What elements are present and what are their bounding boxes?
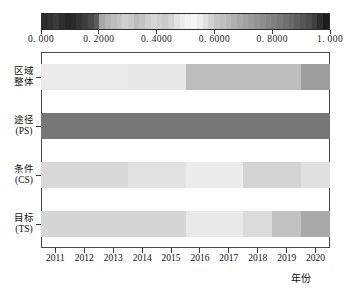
heatmap-cell[interactable] <box>41 211 70 237</box>
y-axis-label-line1: 目标 <box>14 213 34 223</box>
heatmap-cell[interactable] <box>186 211 215 237</box>
x-axis-label-2018: 2018 <box>248 253 267 263</box>
heatmap-cell[interactable] <box>99 64 128 90</box>
colorbar-tick-label-2: 0. 4000 <box>141 34 172 44</box>
heatmap-cell[interactable] <box>186 64 215 90</box>
heatmap-cell[interactable] <box>214 64 243 90</box>
y-axis-label-line2: (CS) <box>14 175 34 186</box>
y-axis: 区域整体途径(PS)条件(CS)目标(TS) <box>0 52 41 248</box>
x-axis-label-2016: 2016 <box>190 253 209 263</box>
heatmap-cell[interactable] <box>157 162 186 188</box>
heatmap-cell[interactable] <box>272 113 301 139</box>
heatmap-row <box>41 211 330 237</box>
heatmap-cell[interactable] <box>99 113 128 139</box>
heatmap-cell[interactable] <box>186 162 215 188</box>
heatmap-cell[interactable] <box>41 113 70 139</box>
y-axis-label-line2: 整体 <box>14 77 34 88</box>
colorbar-tick-label-3: 0. 6000 <box>199 34 230 44</box>
heatmap-cell[interactable] <box>99 211 128 237</box>
x-axis-label-2012: 2012 <box>75 253 94 263</box>
x-axis: 2011201220132014201520162017201820192020 <box>41 248 330 268</box>
y-axis-label-line1: 条件 <box>14 164 34 174</box>
x-axis-label-2013: 2013 <box>104 253 123 263</box>
colorbar-swatch-49 <box>323 14 329 29</box>
heatmap-cell[interactable] <box>243 211 272 237</box>
heatmap-grid <box>41 52 330 248</box>
heatmap-cell[interactable] <box>214 162 243 188</box>
colorbar-tick-labels: 0. 0000. 20000. 40000. 60000. 80001. 000 <box>0 34 346 50</box>
x-axis-label-2014: 2014 <box>133 253 152 263</box>
colorbar-tick-label-0: 0. 000 <box>28 34 54 44</box>
heatmap-cell[interactable] <box>41 64 70 90</box>
heatmap-cell[interactable] <box>70 162 99 188</box>
heatmap-cell[interactable] <box>243 113 272 139</box>
y-axis-tick-3 <box>36 224 41 225</box>
heatmap-cell[interactable] <box>272 64 301 90</box>
y-axis-tick-0 <box>36 77 41 78</box>
y-axis-tick-1 <box>36 126 41 127</box>
heatmap-cell[interactable] <box>128 113 157 139</box>
x-axis-label-2015: 2015 <box>162 253 181 263</box>
heatmap-cell[interactable] <box>70 113 99 139</box>
heatmap-cell[interactable] <box>272 211 301 237</box>
y-axis-label-line2: (PS) <box>14 126 34 137</box>
heatmap-row <box>41 113 330 139</box>
heatmap-cell[interactable] <box>157 64 186 90</box>
heatmap-cell[interactable] <box>41 162 70 188</box>
colorbar-tick-label-1: 0. 2000 <box>83 34 114 44</box>
x-axis-title: 年份 <box>291 270 311 285</box>
heatmap-cell[interactable] <box>128 211 157 237</box>
heatmap-cell[interactable] <box>301 113 330 139</box>
heatmap-cell[interactable] <box>301 64 330 90</box>
y-axis-label-line2: (TS) <box>14 224 34 235</box>
heatmap-cell[interactable] <box>157 211 186 237</box>
heatmap-cell[interactable] <box>99 162 128 188</box>
colorbar-tick-label-4: 0. 8000 <box>257 34 288 44</box>
y-axis-label-3: 目标(TS) <box>14 213 34 235</box>
heatmap-cell[interactable] <box>272 162 301 188</box>
heatmap-cell[interactable] <box>301 211 330 237</box>
y-axis-label-line1: 途径 <box>14 115 34 125</box>
colorbar-gradient-strip <box>41 13 330 30</box>
heatmap-cell[interactable] <box>243 64 272 90</box>
heatmap-cell[interactable] <box>128 64 157 90</box>
heatmap-row <box>41 64 330 90</box>
heatmap-cell[interactable] <box>70 211 99 237</box>
y-axis-label-1: 途径(PS) <box>14 115 34 137</box>
y-axis-label-0: 区域整体 <box>14 66 34 88</box>
y-axis-label-line1: 区域 <box>14 66 34 76</box>
heatmap-cell[interactable] <box>301 162 330 188</box>
heatmap-cell[interactable] <box>186 113 215 139</box>
x-axis-label-2020: 2020 <box>306 253 325 263</box>
colorbar-legend: 0. 0000. 20000. 40000. 60000. 80001. 000 <box>0 0 346 52</box>
x-axis-label-2019: 2019 <box>277 253 296 263</box>
heatmap-cell[interactable] <box>214 113 243 139</box>
heatmap-cell[interactable] <box>243 162 272 188</box>
y-axis-label-2: 条件(CS) <box>14 164 34 186</box>
heatmap-cell[interactable] <box>70 64 99 90</box>
y-axis-tick-2 <box>36 175 41 176</box>
heatmap-cell[interactable] <box>214 211 243 237</box>
heatmap-cell[interactable] <box>128 162 157 188</box>
colorbar-tick-label-5: 1. 000 <box>317 34 343 44</box>
x-axis-label-2011: 2011 <box>46 253 65 263</box>
x-axis-label-2017: 2017 <box>219 253 238 263</box>
heatmap-cell[interactable] <box>157 113 186 139</box>
heatmap-row <box>41 162 330 188</box>
